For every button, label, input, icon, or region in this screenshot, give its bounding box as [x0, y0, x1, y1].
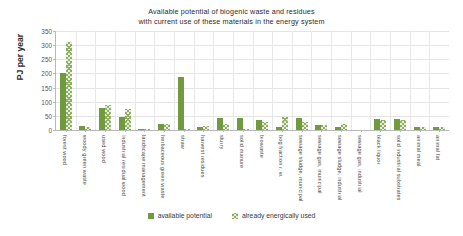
chart-figure: Available potential of biogenic waste an… — [0, 0, 463, 236]
x-axis-tick-label: sewage sludge, industrial — [337, 135, 343, 200]
x-axis-tick-mark — [420, 130, 421, 132]
x-axis-tick-mark — [203, 130, 204, 132]
x-axis-tick-mark — [66, 130, 67, 132]
x-axis-tick-label: sewage sludge, municipal — [298, 135, 304, 201]
x-axis-tick-label: landscape management — [141, 135, 147, 197]
x-axis-tick-mark — [144, 130, 145, 132]
x-axis-tick-mark — [262, 130, 263, 132]
bar-already-energically-used[interactable] — [380, 120, 386, 130]
y-axis-tick-label: 0 — [48, 127, 52, 134]
bar-group — [213, 31, 233, 130]
bar-already-energically-used[interactable] — [400, 120, 406, 130]
bar-already-energically-used[interactable] — [125, 109, 131, 130]
x-axis-tick-mark — [341, 130, 342, 132]
x-axis-tick-mark — [105, 130, 106, 132]
x-axis-tick-mark — [223, 130, 224, 132]
bar-already-energically-used[interactable] — [282, 117, 288, 130]
x-axis-tick-mark — [125, 130, 126, 132]
y-axis-tick-mark — [53, 45, 55, 46]
bar-group — [292, 31, 312, 130]
bar-available-potential[interactable] — [237, 118, 243, 130]
chart-legend: available potential already energically … — [0, 212, 463, 219]
bar-group — [233, 31, 253, 130]
y-axis-tick-mark — [53, 102, 55, 103]
y-axis-tick-mark — [53, 130, 55, 131]
x-axis-tick-label: biowaste — [259, 135, 265, 158]
bar-group — [331, 31, 351, 130]
y-axis-tick-mark — [53, 73, 55, 74]
chart-title-line-2: with current use of these materials in t… — [0, 17, 463, 27]
x-axis-tick-mark — [321, 130, 322, 132]
legend-swatch-solid-icon — [148, 213, 154, 219]
y-axis-tick-label: 200 — [41, 70, 52, 77]
bar-group — [311, 31, 331, 130]
bar-group — [429, 31, 449, 130]
x-axis-tick-label: straw — [180, 135, 186, 149]
x-axis-tick-mark — [164, 130, 165, 132]
y-axis-tick-mark — [53, 59, 55, 60]
x-axis-tick-mark — [439, 130, 440, 132]
y-axis-tick-mark — [53, 116, 55, 117]
x-axis-tick-label: herbaceous green waste — [160, 135, 166, 198]
bar-group — [174, 31, 194, 130]
x-axis-tick-label: sewage gas, industrial — [357, 135, 363, 193]
x-axis-tick-label: slurry — [219, 135, 225, 149]
y-axis-tick-label: 150 — [41, 84, 52, 91]
x-axis-tick-mark — [282, 130, 283, 132]
y-axis-tick-label: 300 — [41, 42, 52, 49]
bar-group — [56, 31, 76, 130]
x-axis-tick-mark — [243, 130, 244, 132]
y-axis-tick-mark — [53, 31, 55, 32]
legend-item-available-potential: available potential — [148, 212, 212, 219]
bar-group — [135, 31, 155, 130]
x-axis-tick-label: used wood — [101, 135, 107, 163]
chart-title: Available potential of biogenic waste an… — [0, 7, 463, 27]
bar-already-energically-used[interactable] — [302, 122, 308, 130]
plot-area: 050100150200250300350forest woodwoody gr… — [55, 31, 449, 131]
legend-label-available-potential: available potential — [158, 212, 212, 219]
y-axis-tick-mark — [53, 88, 55, 89]
x-axis-tick-label: woody green waste — [82, 135, 88, 185]
legend-item-already-energically-used: already energically used — [232, 212, 315, 219]
x-axis-tick-label: forest wood — [62, 135, 68, 165]
bar-already-energically-used[interactable] — [262, 122, 268, 130]
bar-already-energically-used[interactable] — [105, 105, 111, 130]
chart-title-line-1: Available potential of biogenic waste an… — [0, 7, 463, 17]
bar-group — [253, 31, 273, 130]
x-axis-tick-mark — [400, 130, 401, 132]
bar-group — [370, 31, 390, 130]
bar-group — [115, 31, 135, 130]
x-axis-tick-label: industrial residual wood — [121, 135, 127, 196]
bar-group — [351, 31, 371, 130]
x-axis-tick-mark — [361, 130, 362, 132]
x-axis-tick-label: solid industrial substrates — [396, 135, 402, 201]
y-axis-tick-label: 50 — [45, 112, 52, 119]
legend-label-already-energically-used: already energically used — [242, 212, 315, 219]
x-axis-tick-label: black liquor — [376, 135, 382, 165]
bar-group — [76, 31, 96, 130]
x-axis-tick-label: animal meal — [416, 135, 422, 166]
bar-group — [390, 31, 410, 130]
bar-group — [410, 31, 430, 130]
x-axis-tick-mark — [85, 130, 86, 132]
y-axis-label: PJ per year — [15, 17, 25, 97]
bar-already-energically-used[interactable] — [66, 42, 72, 130]
x-axis-tick-label: sewage gas, municipal — [317, 135, 323, 194]
x-axis-tick-label: harvest residues — [200, 135, 206, 178]
legend-swatch-hatch-icon — [232, 213, 238, 219]
y-axis-tick-label: 350 — [41, 28, 52, 35]
bar-group — [154, 31, 174, 130]
y-axis-tick-label: 100 — [41, 98, 52, 105]
x-axis-tick-mark — [302, 130, 303, 132]
bar-group — [194, 31, 214, 130]
bar-group — [95, 31, 115, 130]
x-axis-tick-mark — [380, 130, 381, 132]
x-axis-tick-mark — [184, 130, 185, 132]
bar-available-potential[interactable] — [178, 77, 184, 130]
x-axis-tick-label: animal fat — [435, 135, 441, 160]
x-axis-tick-label: solid manure — [239, 135, 245, 168]
y-axis-tick-label: 250 — [41, 56, 52, 63]
bar-group — [272, 31, 292, 130]
x-axis-tick-label: bog fraction r. w. — [278, 135, 284, 178]
